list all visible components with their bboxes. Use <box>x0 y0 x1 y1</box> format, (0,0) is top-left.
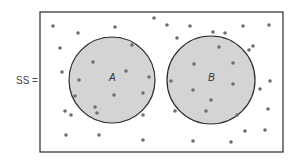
sample-point <box>76 31 80 35</box>
set-a-label: A <box>108 72 116 83</box>
sample-point <box>69 113 73 117</box>
sample-point <box>124 69 128 73</box>
sample-point <box>266 107 270 111</box>
sample-point <box>58 46 62 50</box>
sample-point <box>267 23 271 27</box>
sample-point <box>231 82 235 86</box>
sample-point <box>231 61 235 65</box>
sample-point <box>268 79 272 83</box>
sample-point <box>217 45 221 49</box>
sample-point <box>258 87 262 91</box>
sample-point <box>251 44 255 48</box>
sample-point <box>229 140 233 144</box>
sample-point <box>175 36 179 40</box>
sample-point <box>191 88 195 92</box>
sample-point <box>113 25 117 29</box>
sample-point <box>152 16 156 20</box>
sample-point <box>247 48 251 52</box>
sample-point <box>60 70 64 74</box>
sample-point <box>147 75 151 79</box>
sample-point <box>188 24 192 28</box>
sample-point <box>235 113 239 117</box>
sample-point <box>112 93 116 97</box>
sample-point <box>91 60 95 64</box>
sample-point <box>73 94 77 98</box>
sample-point <box>141 113 145 117</box>
sample-point <box>64 133 68 137</box>
sample-point <box>241 24 245 28</box>
sample-point <box>141 91 145 95</box>
sample-point <box>77 78 81 82</box>
sample-point <box>63 109 67 113</box>
sample-point <box>191 139 195 143</box>
sample-point <box>130 43 134 47</box>
sample-point <box>211 30 215 34</box>
sample-point <box>204 109 208 113</box>
sample-point <box>192 62 196 66</box>
sample-point <box>173 109 177 113</box>
sample-point <box>169 79 173 83</box>
sample-space-label: SS = <box>16 75 38 86</box>
sample-point <box>223 31 227 35</box>
sample-point <box>51 24 55 28</box>
sample-point <box>141 138 145 142</box>
sample-point <box>97 133 101 137</box>
sample-point <box>263 128 267 132</box>
set-b-label: B <box>208 72 215 83</box>
sample-point <box>209 98 213 102</box>
sample-point <box>165 23 169 27</box>
venn-diagram: SS = AB <box>0 0 298 160</box>
sample-point <box>93 105 97 109</box>
sample-point <box>95 111 99 115</box>
sample-point <box>243 129 247 133</box>
